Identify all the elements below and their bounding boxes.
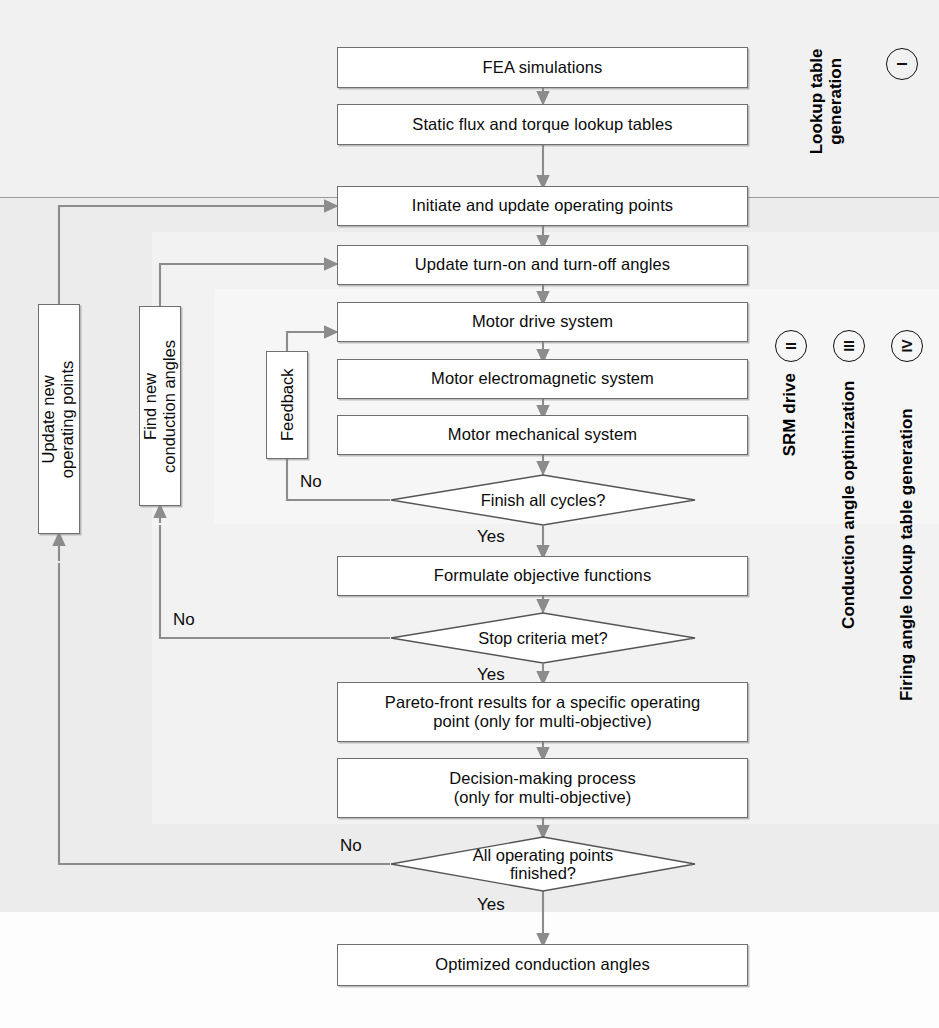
stage-marker-label: IV — [899, 339, 915, 352]
edge-label-all-points-yes: Yes — [477, 895, 505, 915]
node-static-flux-torque-lookup-tables[interactable]: Static flux and torque lookup tables — [337, 104, 748, 145]
node-formulate-objective-functions[interactable]: Formulate objective functions — [337, 556, 748, 596]
stage-caption-text: Conduction angle optimization — [838, 381, 857, 629]
node-motor-mechanical-system[interactable]: Motor mechanical system — [337, 415, 748, 455]
decision-all-operating-points-finished[interactable]: All operating points finished? — [390, 836, 696, 892]
edge-label-stop-criteria-no: No — [173, 610, 195, 630]
node-pareto-front-results[interactable]: Pareto-front results for a specific oper… — [337, 682, 748, 742]
edge-label-finish-cycles-no: No — [300, 472, 322, 492]
node-label: Motor drive system — [472, 312, 613, 331]
node-label: Motor electromagnetic system — [431, 369, 654, 388]
stage-caption-lookup-table-generation: Lookup tablegeneration — [806, 16, 846, 186]
node-update-new-operating-points[interactable]: Update new operating points — [38, 304, 80, 534]
node-label-line-1: Pareto-front results for a specific oper… — [385, 693, 700, 712]
stage-marker-iv: IV — [891, 330, 923, 362]
node-motor-electromagnetic-system[interactable]: Motor electromagnetic system — [337, 359, 748, 399]
stage-marker-ii: II — [775, 330, 807, 362]
node-initiate-update-operating-points[interactable]: Initiate and update operating points — [337, 186, 748, 226]
node-find-new-conduction-angles[interactable]: Find new conduction angles — [139, 306, 181, 506]
node-label-line-2: point (only for multi-objective) — [433, 712, 652, 731]
stage-caption-text: Firing angle lookup table generation — [896, 409, 915, 702]
node-fea-simulations[interactable]: FEA simulations — [337, 47, 748, 88]
stage-marker-label: II — [783, 342, 799, 350]
node-label: Find new conduction angles — [141, 339, 180, 472]
node-motor-drive-system[interactable]: Motor drive system — [337, 302, 748, 342]
band-lookup-table-generation — [0, 0, 939, 198]
stage-marker-label: I — [894, 62, 910, 66]
decision-stop-criteria-met[interactable]: Stop criteria met? — [390, 612, 696, 664]
stage-caption-firing-angle-lookup-table-generation: Firing angle lookup table generation — [886, 360, 926, 750]
stage-caption-srm-drive: SRM drive — [770, 360, 810, 470]
stage-marker-label: III — [841, 340, 857, 352]
node-label-line-1: Decision-making process — [449, 769, 636, 788]
stage-caption-conduction-angle-optimization: Conduction angle optimization — [828, 360, 868, 650]
node-feedback[interactable]: Feedback — [266, 351, 308, 459]
stage-marker-iii: III — [833, 330, 865, 362]
edge-label-stop-criteria-yes: Yes — [477, 665, 505, 685]
stage-caption-text: Lookup tablegeneration — [807, 48, 846, 154]
flowchart-canvas: FEA simulations Static flux and torque l… — [0, 0, 939, 1028]
decision-finish-all-cycles[interactable]: Finish all cycles? — [390, 474, 696, 526]
node-label-line-2: (only for multi-objective) — [454, 788, 632, 807]
node-label: Update new operating points — [40, 360, 79, 477]
node-label: Formulate objective functions — [434, 566, 652, 585]
node-label: FEA simulations — [483, 58, 603, 77]
node-label: Feedback — [277, 369, 296, 441]
node-optimized-conduction-angles[interactable]: Optimized conduction angles — [337, 944, 748, 986]
stage-caption-text: SRM drive — [780, 373, 799, 456]
node-label: Static flux and torque lookup tables — [412, 115, 672, 134]
node-label: Motor mechanical system — [448, 425, 637, 444]
edge-label-all-points-no: No — [340, 836, 362, 856]
node-update-turn-on-turn-off-angles[interactable]: Update turn-on and turn-off angles — [337, 245, 748, 285]
edge-label-finish-cycles-yes: Yes — [477, 527, 505, 547]
node-label: Update turn-on and turn-off angles — [415, 255, 670, 274]
node-label: Optimized conduction angles — [435, 955, 650, 974]
node-label: Initiate and update operating points — [412, 196, 673, 215]
stage-marker-i: I — [886, 48, 918, 80]
node-decision-making-process[interactable]: Decision-making process (only for multi-… — [337, 758, 748, 818]
